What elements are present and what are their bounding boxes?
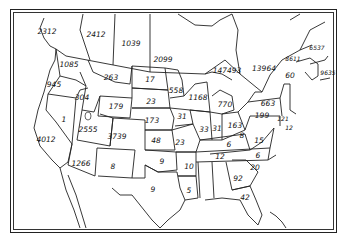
label-south-carolina: 20 xyxy=(250,164,260,172)
label-ontario: 147493 xyxy=(213,67,242,75)
label-new-mexico: 8 xyxy=(111,163,116,171)
label-west-virginia: 8 xyxy=(240,132,245,140)
label-missouri: 23 xyxy=(175,139,185,147)
label-nova-scotia: 9635 xyxy=(320,70,335,76)
label-georgia: 92 xyxy=(233,175,243,183)
label-north-dakota: 17 xyxy=(145,76,155,84)
label-louisiana: 5 xyxy=(187,187,192,195)
label-saskatchewan: 1039 xyxy=(121,40,140,48)
label-indiana: 31 xyxy=(212,125,222,133)
label-pennsylvania: 199 xyxy=(255,112,269,120)
label-florida: 42 xyxy=(240,194,250,202)
label-north-carolina: 6 xyxy=(256,152,261,160)
label-iowa: 31 xyxy=(177,113,187,121)
label-nevada: 1 xyxy=(62,116,67,124)
label-pei: 6537 xyxy=(309,45,324,51)
label-alberta: 2412 xyxy=(86,31,105,39)
label-kansas: 48 xyxy=(151,137,161,145)
label-connecticut: 12 xyxy=(285,125,293,131)
label-oregon: 945 xyxy=(47,81,61,89)
label-massachusetts: 121 xyxy=(277,116,288,122)
label-idaho: 304 xyxy=(75,94,89,102)
label-california: 4012 xyxy=(36,136,55,144)
label-british-columbia: 2312 xyxy=(37,28,56,36)
label-utah: 2555 xyxy=(78,126,97,134)
map-outlines xyxy=(0,0,347,242)
label-new-york: 663 xyxy=(261,100,275,108)
label-arizona: 1266 xyxy=(71,160,90,168)
label-michigan: 770 xyxy=(218,101,232,109)
label-arkansas: 10 xyxy=(184,163,194,171)
label-nebraska: 173 xyxy=(145,117,159,125)
label-kentucky: 6 xyxy=(227,141,232,149)
label-oklahoma: 9 xyxy=(160,158,165,166)
label-virginia: 15 xyxy=(254,137,264,145)
label-south-dakota: 23 xyxy=(146,98,156,106)
label-montana: 263 xyxy=(104,74,118,82)
label-wyoming: 179 xyxy=(109,103,123,111)
label-texas: 9 xyxy=(151,186,156,194)
label-new-brunswick: 60 xyxy=(285,72,295,80)
label-minnesota: 558 xyxy=(169,87,183,95)
label-tennessee: 12 xyxy=(215,153,225,161)
label-manitoba: 2099 xyxy=(153,56,172,64)
label-ohio: 163 xyxy=(228,122,242,130)
label-washington: 1085 xyxy=(59,61,78,69)
label-quebec: 13964 xyxy=(252,65,276,73)
label-colorado: 3739 xyxy=(107,133,126,141)
label-gaspe: 8611 xyxy=(285,56,300,62)
label-illinois: 33 xyxy=(199,126,209,134)
label-wisconsin: 1168 xyxy=(188,94,207,102)
